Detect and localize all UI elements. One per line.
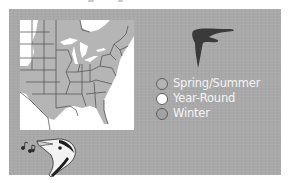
legend: Spring/Summer Year-Round Winter <box>156 76 276 121</box>
singing-bird-head-icon <box>19 135 83 179</box>
legend-label: Year-Round <box>173 91 235 106</box>
legend-item-spring-summer: Spring/Summer <box>156 76 276 91</box>
range-map-panel: Spring/Summer Year-Round Winter <box>9 9 281 175</box>
eastern-us-map-graphic <box>20 20 134 130</box>
legend-label: Winter <box>173 106 210 121</box>
year-round-swatch-icon <box>156 93 168 105</box>
legend-label: Spring/Summer <box>173 76 260 91</box>
swift-silhouette-icon <box>189 23 237 71</box>
legend-item-winter: Winter <box>156 106 276 121</box>
music-notes-icon <box>21 142 35 153</box>
range-map <box>20 20 134 130</box>
winter-swatch-icon <box>156 108 168 120</box>
spring-summer-swatch-icon <box>156 78 168 90</box>
legend-item-year-round: Year-Round <box>156 91 276 106</box>
cropped-title-fragment <box>80 0 140 3</box>
